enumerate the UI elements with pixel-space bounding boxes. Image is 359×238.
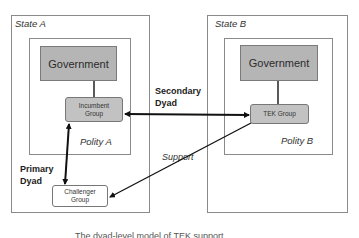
primary-dyad-arrow (65, 124, 69, 184)
figure-caption: The dyad-level model of TEK support (75, 231, 223, 238)
support-arrow (110, 123, 251, 197)
secondary-dyad-arrow (125, 114, 249, 115)
connector-layer (0, 0, 359, 238)
